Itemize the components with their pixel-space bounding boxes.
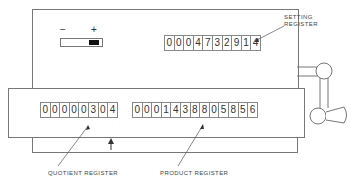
up-arrow-icon <box>108 138 114 144</box>
crank-hub-icon <box>316 63 332 79</box>
crank-and-leaders <box>0 0 351 180</box>
crank-handle-hub-icon <box>310 108 326 124</box>
